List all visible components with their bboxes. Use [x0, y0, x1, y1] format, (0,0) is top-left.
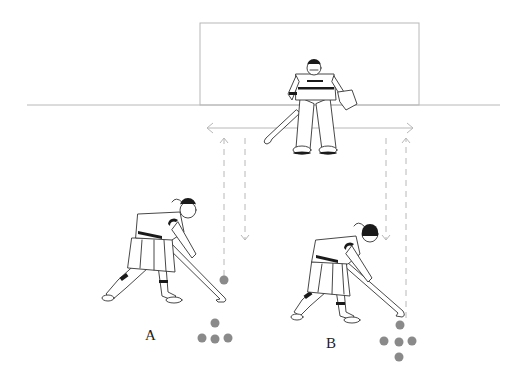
ball [395, 353, 404, 362]
goalkeeper-figure [264, 59, 357, 155]
drill-diagram [0, 0, 529, 383]
player-a-label: A [145, 327, 156, 344]
ball [211, 319, 220, 328]
balls-group-b [380, 321, 417, 362]
player-a-figure [102, 198, 226, 303]
player-b-label: B [326, 335, 336, 352]
dashed-arrow-a-down [241, 138, 249, 240]
ball [220, 276, 229, 285]
dashed-arrow-b-up [402, 138, 410, 318]
ball [198, 334, 207, 343]
ball [395, 338, 404, 347]
balls-group-a [198, 276, 233, 344]
dashed-arrow-a-up [220, 138, 228, 276]
dashed-arrow-b-down [382, 138, 390, 240]
ball [380, 337, 389, 346]
ball [408, 337, 417, 346]
ball [396, 321, 405, 330]
ball [211, 335, 220, 344]
ball [224, 334, 233, 343]
